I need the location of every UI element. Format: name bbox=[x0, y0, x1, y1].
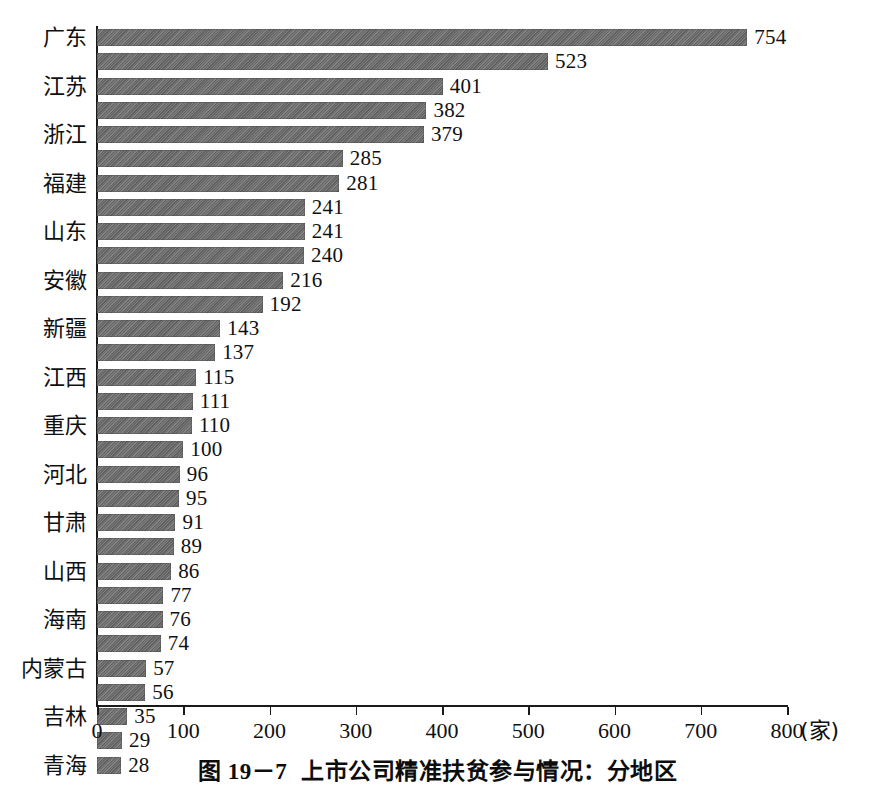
bar bbox=[97, 223, 305, 240]
bar-row: 143 bbox=[97, 317, 787, 341]
bar-value-label: 86 bbox=[178, 560, 199, 583]
bar-row: 77 bbox=[97, 584, 787, 608]
bar bbox=[97, 199, 305, 216]
y-axis-category-label: 安徽 bbox=[0, 269, 90, 293]
bar-row: 285 bbox=[97, 147, 787, 171]
bar-row: 56 bbox=[97, 681, 787, 705]
x-axis-tick-label: 500 bbox=[512, 718, 545, 744]
x-axis-tick-label: 300 bbox=[339, 718, 372, 744]
bar-value-label: 401 bbox=[450, 75, 482, 98]
bar-value-label: 95 bbox=[186, 487, 207, 510]
bar-row: 241 bbox=[97, 220, 787, 244]
y-axis-category-label: 吉林 bbox=[0, 705, 90, 729]
bar-row: 96 bbox=[97, 463, 787, 487]
y-axis-category-label: 内蒙古 bbox=[0, 657, 90, 681]
bar bbox=[97, 611, 163, 628]
x-axis-tick bbox=[787, 707, 789, 715]
bar-row: 74 bbox=[97, 632, 787, 656]
y-axis-category-label: 新疆 bbox=[0, 317, 90, 341]
bar bbox=[97, 563, 171, 580]
bar bbox=[97, 441, 183, 458]
bar bbox=[97, 417, 192, 434]
y-axis-category-label: 海南 bbox=[0, 608, 90, 632]
bar-value-label: 241 bbox=[312, 220, 344, 243]
bar bbox=[97, 150, 343, 167]
bar-value-label: 382 bbox=[433, 99, 465, 122]
bar-value-label: 192 bbox=[270, 293, 302, 316]
bar-row: 281 bbox=[97, 172, 787, 196]
bar bbox=[97, 466, 180, 483]
bar-row: 754 bbox=[97, 26, 787, 50]
y-axis-category-label: 河北 bbox=[0, 463, 90, 487]
bar-value-label: 89 bbox=[181, 535, 202, 558]
bar-value-label: 285 bbox=[350, 147, 382, 170]
bar-value-label: 115 bbox=[203, 366, 234, 389]
y-axis-category-labels: 广东江苏浙江福建山东安徽新疆江西重庆河北甘肃山西海南内蒙古吉林青海 bbox=[0, 26, 90, 705]
bar-row: 192 bbox=[97, 293, 787, 317]
bar bbox=[97, 660, 146, 677]
x-axis-tick bbox=[97, 707, 99, 715]
y-axis-category-label: 江西 bbox=[0, 366, 90, 390]
bar-value-label: 76 bbox=[170, 608, 191, 631]
bar bbox=[97, 175, 339, 192]
bar-value-label: 523 bbox=[555, 50, 587, 73]
bar bbox=[97, 102, 426, 119]
y-axis-category-label: 山西 bbox=[0, 560, 90, 584]
bar-value-label: 91 bbox=[182, 511, 203, 534]
x-axis-tick bbox=[701, 707, 703, 715]
bar-value-label: 100 bbox=[190, 438, 222, 461]
y-axis-category-label: 江苏 bbox=[0, 75, 90, 99]
bar-row: 240 bbox=[97, 244, 787, 268]
x-axis-tick-label: 400 bbox=[426, 718, 459, 744]
bar-value-label: 74 bbox=[168, 632, 189, 655]
bar bbox=[97, 126, 424, 143]
x-axis-tick-label: 800 bbox=[771, 718, 804, 744]
bar-value-label: 35 bbox=[134, 705, 155, 728]
x-axis-tick bbox=[356, 707, 358, 715]
bar-value-label: 96 bbox=[187, 463, 208, 486]
bar bbox=[97, 369, 196, 386]
bar-row: 95 bbox=[97, 487, 787, 511]
bar bbox=[97, 247, 304, 264]
bar bbox=[97, 514, 175, 531]
bar-row: 401 bbox=[97, 75, 787, 99]
bar-row: 115 bbox=[97, 366, 787, 390]
bar-value-label: 240 bbox=[311, 244, 343, 267]
bar-row: 523 bbox=[97, 50, 787, 74]
y-axis-category-label: 重庆 bbox=[0, 414, 90, 438]
y-axis-category-label: 浙江 bbox=[0, 123, 90, 147]
bar-row: 216 bbox=[97, 269, 787, 293]
bar bbox=[97, 538, 174, 555]
figure-number: 图 19－7 bbox=[198, 759, 287, 784]
bar bbox=[97, 587, 163, 604]
bar-row: 86 bbox=[97, 560, 787, 584]
plot-area: 7545234013823792852812412412402161921431… bbox=[97, 26, 787, 705]
bar-value-label: 56 bbox=[152, 681, 173, 704]
bar bbox=[97, 78, 443, 95]
bar-value-label: 379 bbox=[431, 123, 463, 146]
bar bbox=[97, 53, 548, 70]
bar-value-label: 137 bbox=[222, 341, 254, 364]
bar-row: 76 bbox=[97, 608, 787, 632]
bar-value-label: 241 bbox=[312, 196, 344, 219]
y-axis-category-label: 山东 bbox=[0, 220, 90, 244]
x-axis-tick bbox=[183, 707, 185, 715]
bar bbox=[97, 29, 747, 46]
figure-caption: 图 19－7上市公司精准扶贫参与情况：分地区 bbox=[0, 757, 875, 787]
x-axis-tick bbox=[528, 707, 530, 715]
bar-value-label: 57 bbox=[153, 657, 174, 680]
bar-row: 100 bbox=[97, 438, 787, 462]
x-axis-tick-label: 700 bbox=[684, 718, 717, 744]
bar bbox=[97, 320, 220, 337]
x-axis-tick-label: 100 bbox=[167, 718, 200, 744]
bar-row: 241 bbox=[97, 196, 787, 220]
bar-value-label: 110 bbox=[199, 414, 230, 437]
bar-value-label: 281 bbox=[346, 172, 378, 195]
x-axis-tick-label: 600 bbox=[598, 718, 631, 744]
bar-value-label: 29 bbox=[129, 729, 150, 752]
bar bbox=[97, 296, 263, 313]
bar-row: 379 bbox=[97, 123, 787, 147]
bar-row: 137 bbox=[97, 341, 787, 365]
bar-row: 91 bbox=[97, 511, 787, 535]
bar bbox=[97, 635, 161, 652]
